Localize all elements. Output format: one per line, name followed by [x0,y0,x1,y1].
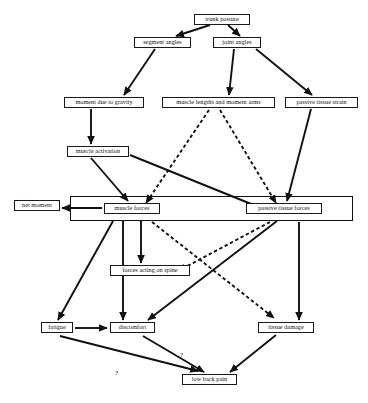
edge-muscle-lengths-to-muscle-forces-dashed [146,110,209,203]
edge-annotation-fatigue-to-low-back-pain: ? [115,369,118,377]
node-label: trunk posture [205,16,238,22]
node-passive-tissue-forces[interactable]: passive tissue forces [246,203,322,214]
node-segment-angles[interactable]: segment angles [134,37,191,48]
node-label: muscle forces [115,205,150,211]
node-label: tissue damage [268,324,304,330]
diagram-canvas: trunk posture segment angles joint angle… [0,0,368,403]
edge-passive-tissue-forces-to-forces-acting-on-spine-dashed [178,222,270,271]
node-muscle-activation[interactable]: muscle activation [67,146,129,157]
node-trunk-posture[interactable]: trunk posture [194,14,250,25]
node-label: muscle lengths and moment arms [176,99,260,105]
edge-muscle-forces-to-fatigue [58,221,113,320]
node-moment-due-to-gravity[interactable]: moment due to gravity [64,97,144,108]
node-low-back-pain[interactable]: low back pain [182,374,237,385]
node-label: fatigue [48,324,66,330]
node-muscle-lengths-and-moment-arms[interactable]: muscle lengths and moment arms [162,97,275,108]
node-label: muscle activation [76,148,120,154]
node-passive-tissue-strain[interactable]: passive tissue strain [285,97,358,108]
edge-annotation-discomfort-to-low-back-pain: ? [180,351,183,359]
node-label: passive tissue strain [296,99,346,105]
edge-discomfort-to-low-back-pain [143,336,204,372]
edge-joint-angles-to-muscle-lengths [229,49,234,95]
node-label: joint angles [222,39,251,45]
edge-muscle-activation-to-muscle-forces [91,158,128,201]
edge-passive-tissue-strain-to-passive-tissue-forces [287,109,311,201]
node-label: forces acting on spine [122,267,177,273]
edge-joint-angles-to-passive-tissue-strain [256,49,312,95]
node-label: discomfort [119,324,146,330]
node-label: moment due to gravity [75,99,132,105]
node-label: passive tissue forces [258,205,310,211]
edge-trunk-posture-to-segment-angles [176,25,210,36]
node-muscle-forces[interactable]: muscle forces [104,203,160,214]
node-label: low back pain [192,376,227,382]
node-label: net moment [22,202,52,208]
node-forces-acting-on-spine[interactable]: forces acting on spine [110,265,190,276]
node-label: segment angles [143,39,182,45]
edge-fatigue-to-low-back-pain [60,336,198,371]
node-discomfort[interactable]: discomfort [110,322,155,333]
edge-muscle-lengths-to-passive-tissue-forces-dashed [220,110,276,203]
edge-trunk-posture-to-joint-angles [228,25,240,36]
node-tissue-damage[interactable]: tissue damage [258,322,314,333]
node-joint-angles[interactable]: joint angles [213,37,261,48]
node-fatigue[interactable]: fatigue [41,322,73,333]
edge-segment-angles-to-moment-due-to-gravity [124,49,155,95]
edge-tissue-damage-to-low-back-pain [230,335,276,372]
node-net-moment[interactable]: net moment [14,200,60,211]
